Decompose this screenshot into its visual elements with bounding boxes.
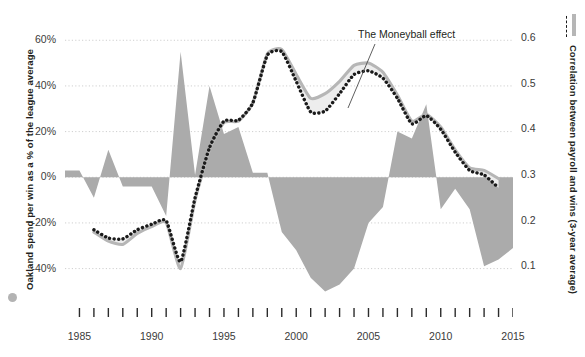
right-axis-title: Correlation between payroll and wins (3-… bbox=[568, 20, 579, 320]
x-axis-ticks bbox=[79, 308, 513, 317]
left-axis-tick-label: 0% bbox=[10, 170, 56, 182]
oakland-spend-area bbox=[65, 52, 513, 292]
right-axis-tick-label: 0.5 bbox=[521, 77, 567, 89]
right-axis-tick-label: 0.4 bbox=[521, 122, 567, 134]
left-axis-tick-label: 20% bbox=[10, 125, 56, 137]
right-axis-tick-label: 0.2 bbox=[521, 214, 567, 226]
left-axis-tick-label: 60% bbox=[10, 33, 56, 45]
left-axis-tick-label: -20% bbox=[10, 216, 56, 228]
left-axis-tick-label: 40% bbox=[10, 79, 56, 91]
left-axis-tick-label: -40% bbox=[10, 262, 56, 274]
chart-root: Oakland spend per win as a % of the leag… bbox=[0, 0, 585, 357]
plot-area bbox=[65, 22, 513, 296]
moneyball-annotation-label: The Moneyball effect bbox=[358, 28, 455, 40]
solid-line-legend-icon bbox=[572, 14, 576, 36]
right-axis-tick-label: 0.6 bbox=[521, 31, 567, 43]
right-axis-tick-label: 0.1 bbox=[521, 259, 567, 271]
left-series-legend-dot bbox=[8, 293, 17, 302]
right-axis-tick-label: 0.3 bbox=[521, 168, 567, 180]
